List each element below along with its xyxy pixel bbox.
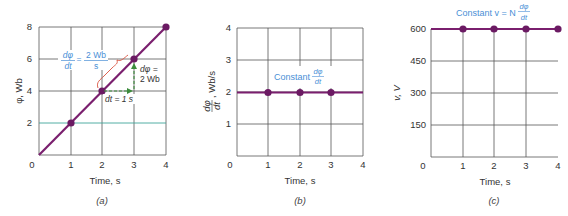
chart-a-ytick: 8 [27, 21, 32, 32]
chart-b-ytick: 2 [226, 86, 231, 97]
chart-a-xlabel: Time, s [90, 175, 121, 186]
chart-a-xtick: 1 [68, 159, 73, 170]
chart-a: 8 6 4 2 0 1 2 3 4 Time, s φ, Wb (a) dφ d… [13, 21, 170, 206]
chart-b-xtick: 2 [297, 159, 302, 170]
chart-c-xlabel: Time, s [480, 176, 511, 187]
chart-b-panel-label: (b) [294, 195, 306, 206]
chart-c-xtick: 3 [523, 160, 528, 171]
chart-a-xtick: 3 [131, 159, 136, 170]
chart-c-xtick: 0 [420, 160, 425, 171]
chart-c-ytick: 150 [410, 119, 426, 130]
chart-b-xtick: 4 [360, 159, 365, 170]
chart-a-dphi-value: 2 Wb [140, 74, 160, 84]
chart-c-ytick: 600 [410, 23, 426, 34]
chart-a-panel-label: (a) [96, 195, 108, 206]
chart-b-ylabel: dφ dt , Wb/s [201, 71, 222, 112]
svg-text:dt: dt [521, 13, 528, 22]
chart-a-xtick: 2 [99, 159, 104, 170]
svg-text:Constant v = N: Constant v = N [456, 8, 516, 18]
chart-b-xlabel: Time, s [285, 175, 316, 186]
svg-text:, Wb/s: , Wb/s [206, 71, 217, 98]
chart-c-panel-label: (c) [488, 195, 499, 206]
chart-c-grid [431, 29, 558, 157]
chart-c-xtick: 2 [491, 160, 496, 171]
chart-c-ylabel: v, V [391, 84, 402, 101]
chart-b-ytick: 1 [226, 118, 231, 129]
chart-a-ytick: 6 [27, 53, 32, 64]
svg-text:s: s [94, 61, 98, 71]
chart-a-ylabel: φ, Wb [13, 78, 24, 104]
chart-b-xtick: 1 [265, 159, 270, 170]
svg-text:dφ: dφ [519, 2, 528, 11]
chart-b-ytick: 4 [226, 22, 231, 33]
chart-a-dt-label: dt = 1 s [105, 94, 134, 104]
figure: 8 6 4 2 0 1 2 3 4 Time, s φ, Wb (a) dφ d… [0, 0, 568, 216]
chart-a-xtick: 0 [29, 159, 34, 170]
chart-c-ytick: 300 [410, 87, 426, 98]
chart-c-xtick: 4 [555, 160, 560, 171]
svg-text:Constant: Constant [274, 72, 311, 82]
svg-text:dt: dt [315, 77, 322, 86]
chart-b-ytick: 3 [226, 54, 231, 65]
chart-b-xtick: 0 [227, 159, 232, 170]
chart-c: 600 450 300 150 0 1 2 3 4 Time, s v, V (… [391, 2, 562, 206]
chart-a-ytick: 2 [27, 117, 32, 128]
svg-text:=: = [77, 54, 82, 64]
chart-b: 4 3 2 1 0 1 2 3 4 Time, s dφ dt , Wb/s (… [201, 22, 366, 206]
svg-text:dt: dt [64, 61, 72, 71]
chart-a-ytick: 4 [27, 85, 32, 96]
chart-a-dphi-arrowhead-icon [131, 63, 137, 69]
svg-text:dφ: dφ [63, 50, 74, 60]
chart-c-xtick: 1 [460, 160, 465, 171]
chart-c-ytick: 450 [410, 55, 426, 66]
chart-a-dphi-label: dφ = [140, 64, 158, 74]
svg-text:dφ: dφ [313, 67, 322, 76]
svg-text:dt: dt [211, 102, 222, 110]
chart-c-annotation: Constant v = N dφ dt [456, 2, 530, 22]
svg-text:2 Wb: 2 Wb [86, 50, 106, 60]
chart-b-xtick: 3 [328, 159, 333, 170]
chart-a-xtick: 4 [163, 159, 168, 170]
